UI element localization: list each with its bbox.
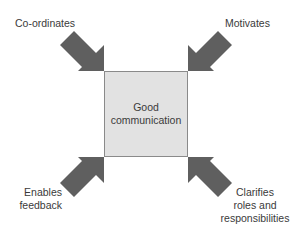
arrow-bottom-left <box>60 157 104 197</box>
label-roles-and: roles and <box>220 199 290 212</box>
label-top-right: Motivates <box>225 17 270 30</box>
label-co-ordinates: Co-ordinates <box>15 17 75 29</box>
label-feedback: feedback <box>18 199 62 212</box>
center-label-line2: communication <box>111 114 182 127</box>
arrow-top-left <box>60 31 104 71</box>
label-enables: Enables <box>18 186 62 199</box>
label-bottom-left: Enables feedback <box>18 186 62 212</box>
label-clarifies: Clarifies <box>220 186 290 199</box>
label-bottom-right: Clarifies roles and responsibilities <box>220 186 290 225</box>
label-motivates: Motivates <box>225 17 270 29</box>
center-box-label: Good communication <box>104 71 188 157</box>
arrow-top-right <box>188 31 232 71</box>
label-responsibilities: responsibilities <box>220 212 290 225</box>
label-top-left: Co-ordinates <box>15 17 75 30</box>
center-label-line1: Good <box>133 101 159 114</box>
